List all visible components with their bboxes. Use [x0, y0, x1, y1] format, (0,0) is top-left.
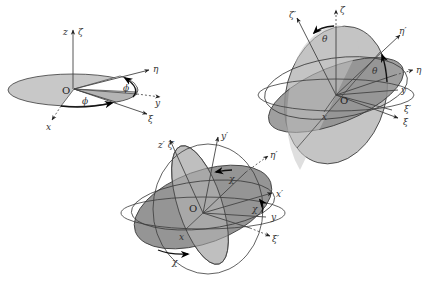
panel-theta-rotation: ζ ζ′ θ η′ η θ y ξ′ ξ x O — [258, 5, 422, 176]
label-y-prime: y′ — [220, 131, 228, 141]
label-zeta: ζ — [340, 5, 346, 15]
y-axis — [137, 94, 160, 97]
euler-angles-diagram: z ζ η y ξ x O ϕ ϕ ζ — [0, 0, 427, 287]
label-phi-top: ϕ — [123, 83, 129, 93]
label-eta-prime: η′ — [399, 26, 406, 36]
label-x-prime: x′ — [276, 189, 283, 199]
label-y: y — [154, 98, 161, 108]
label-x: x — [46, 122, 51, 132]
label-eta-prime: η′ — [270, 150, 277, 160]
label-phi-bottom: ϕ — [82, 96, 88, 106]
label-y: y — [270, 212, 277, 222]
label-chi-top: χ — [228, 174, 235, 184]
label-xi: ξ — [403, 117, 409, 127]
label-xi-prime: ξ′ — [272, 234, 279, 244]
panel-phi-rotation: z ζ η y ξ x O ϕ ϕ — [8, 27, 161, 132]
label-z-prime-zeta-prime: z′ ζ′ — [157, 140, 175, 150]
label-zeta: ζ — [78, 27, 84, 37]
label-x: x — [322, 112, 327, 122]
label-xi-prime: ξ′ — [404, 104, 411, 114]
label-xi: ξ — [148, 114, 154, 124]
label-theta-top: θ — [322, 34, 328, 44]
panel-chi-rotation: z′ ζ′ y′ η′ χ x′ y χ ξ′ x O χ — [121, 131, 285, 274]
label-y: y — [400, 85, 407, 95]
label-theta-right: θ — [372, 66, 378, 76]
origin-label: O — [340, 95, 348, 106]
label-chi-right: χ — [251, 204, 258, 214]
label-eta: η — [153, 64, 159, 74]
label-zeta-prime: ζ′ — [289, 10, 296, 20]
origin-label: O — [189, 203, 197, 214]
label-chi-bottom: χ — [171, 257, 178, 267]
x-axis — [52, 106, 61, 120]
origin-label: O — [62, 85, 70, 96]
label-z: z — [62, 27, 68, 37]
chi-arc-bottom — [158, 250, 188, 254]
label-x: x — [179, 232, 184, 242]
label-eta: η — [416, 65, 422, 75]
